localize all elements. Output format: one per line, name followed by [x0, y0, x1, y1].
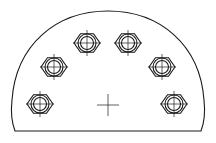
hex-bolt-icon: [160, 91, 188, 117]
hex-bolt-icon: [114, 30, 142, 56]
hex-bolt-icon: [26, 91, 54, 117]
center-mark: [97, 94, 119, 116]
flange-plate-drawing: [0, 0, 216, 143]
bolt-group: [26, 30, 188, 117]
hex-bolt-icon: [148, 54, 176, 80]
hex-bolt-icon: [73, 30, 101, 56]
hex-bolt-icon: [40, 54, 68, 80]
